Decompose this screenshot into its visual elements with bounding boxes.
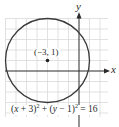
circle-figure: y x (−3, 1) (x + 3)2 + (y − 1)2 = 16 — [0, 0, 119, 127]
x-axis-label: x — [111, 64, 116, 75]
eq-part4: − 1) — [57, 104, 75, 114]
eq-part3: + ( — [39, 104, 52, 114]
x-axis-arrow-icon — [104, 69, 110, 74]
center-point — [46, 59, 50, 63]
circle-equation: (x + 3)2 + (y − 1)2 = 16 — [10, 105, 99, 115]
eq-part2: + 3) — [18, 104, 36, 114]
center-point-label: (−3, 1) — [33, 48, 60, 57]
grid — [6, 19, 109, 118]
y-axis-arrow-icon — [77, 12, 82, 19]
y-axis-label: y — [76, 1, 81, 12]
eq-part5: = 16 — [78, 104, 98, 114]
